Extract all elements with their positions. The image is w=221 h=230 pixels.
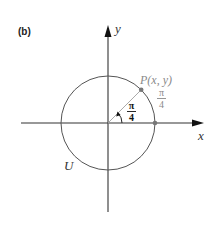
radius-ray	[108, 90, 141, 123]
angle-label-denominator: 4	[129, 112, 134, 123]
point-p	[139, 88, 144, 93]
arc-label-numerator: π	[159, 87, 164, 98]
circle-label: U	[64, 158, 75, 173]
arc-label: π 4	[157, 87, 166, 110]
angle-label: π 4	[127, 100, 136, 123]
arc-label-denominator: 4	[159, 99, 164, 110]
x-axis-arrow-icon	[192, 120, 204, 127]
point-p-label: P(x, y)	[139, 73, 172, 87]
y-axis-label: y	[113, 21, 121, 36]
panel-label: (b)	[18, 26, 31, 37]
y-axis-arrow-icon	[105, 25, 112, 37]
x-axis-label: x	[197, 128, 204, 143]
point-on-x-axis	[153, 121, 158, 126]
unit-circle-figure: (b) x y U π 4 π 4 P(x,	[0, 0, 221, 230]
angle-label-numerator: π	[129, 100, 135, 111]
